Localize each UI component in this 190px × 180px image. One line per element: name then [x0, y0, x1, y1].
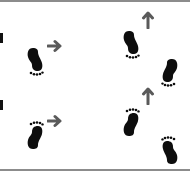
footprint-icon [158, 135, 180, 165]
footprint-icon [25, 47, 47, 77]
arrow-up-icon [141, 11, 155, 29]
arrow-up-icon [141, 87, 155, 105]
arrow-right-icon [47, 39, 63, 53]
footprint-icon [158, 58, 180, 88]
bottom-rule [0, 169, 190, 171]
cropped-footprint-fragment [0, 100, 3, 110]
footprint-icon [121, 107, 143, 137]
footprint-icon [25, 120, 47, 150]
footprint-icon [121, 30, 143, 60]
arrow-right-icon [47, 114, 63, 128]
top-rule [0, 0, 190, 2]
cropped-footprint-fragment [0, 33, 3, 43]
